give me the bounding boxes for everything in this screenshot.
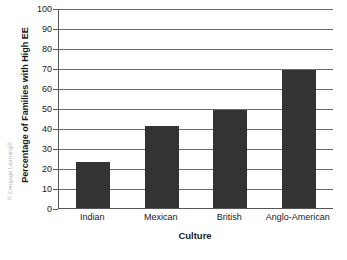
y-tick-label: 70 [30,65,52,74]
y-tick-mark [53,209,58,210]
plot-area [58,9,333,209]
copyright-credit: © Cengage Learning® [7,135,13,207]
y-tick-label: 90 [30,25,52,34]
y-tick-mark [53,189,58,190]
bar [213,110,247,208]
y-tick-mark [53,9,58,10]
y-tick-mark [53,169,58,170]
x-tick-label: British [217,212,242,222]
bar [145,126,179,208]
y-tick-label: 40 [30,125,52,134]
y-axis-tick-labels: 0102030405060708090100 [30,9,52,209]
y-tick-mark [53,49,58,50]
y-tick-label: 10 [30,185,52,194]
bar [76,162,110,208]
y-tick-mark [53,69,58,70]
y-tick-mark [53,29,58,30]
bar-chart-figure: © Cengage Learning® Percentage of Famili… [0,0,347,260]
x-tick-label: Indian [80,212,105,222]
x-axis-line [59,208,333,209]
y-tick-label: 80 [30,45,52,54]
y-axis-title: Percentage of Families with High EE [20,8,30,203]
x-axis-title: Culture [58,230,332,241]
y-tick-mark [53,149,58,150]
y-tick-label: 0 [30,205,52,214]
y-tick-label: 60 [30,85,52,94]
y-tick-label: 50 [30,105,52,114]
bar [282,70,316,208]
x-tick-label: Anglo-American [266,212,330,222]
y-tick-label: 20 [30,165,52,174]
y-tick-mark [53,89,58,90]
y-tick-label: 100 [30,5,52,14]
x-axis-tick-labels: IndianMexicanBritishAnglo-American [58,212,332,226]
y-tick-mark [53,109,58,110]
y-tick-label: 30 [30,145,52,154]
bar-series [59,9,333,209]
y-tick-mark [53,129,58,130]
x-tick-label: Mexican [144,212,178,222]
